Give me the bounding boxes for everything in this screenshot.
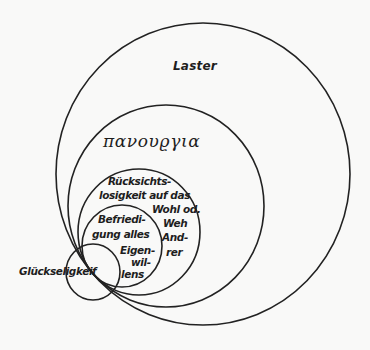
label-befriedigung-line1: Befriedi- <box>98 213 145 226</box>
label-panourgia: πανουϱγια <box>103 131 200 151</box>
label-ruecksicht-line4: Weh <box>163 217 187 230</box>
label-laster: Laster <box>173 60 217 73</box>
label-glueckseligkeit: Glückseligkeif <box>19 265 96 278</box>
label-ruecksicht-line3: Wohl od. <box>152 203 200 216</box>
label-befriedigung-line2: gung alles <box>92 228 149 241</box>
label-ruecksicht-line6: rer <box>166 246 182 259</box>
label-ruecksicht-line1: Rücksichts- <box>108 175 171 188</box>
nested-circles-diagram <box>0 0 370 350</box>
label-ruecksicht-line5: And- <box>162 231 188 244</box>
label-ruecksicht-line2: losigkeit auf das <box>99 189 190 202</box>
diagram-canvas: Laster πανουϱγια Rücksichts- losigkeit a… <box>0 0 370 350</box>
label-befriedigung-line5: lens <box>121 268 144 281</box>
